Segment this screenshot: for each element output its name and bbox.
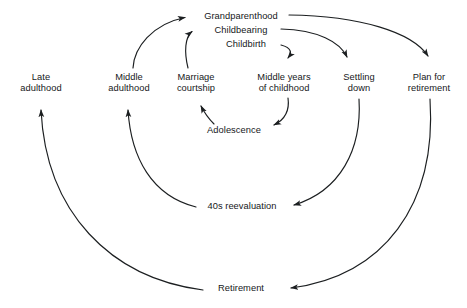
node-middle-years-line2: of childhood: [243, 83, 325, 94]
node-childbearing: Childbearing: [202, 25, 280, 36]
node-grandparenthood-label: Grandparenthood: [195, 11, 287, 22]
node-plan-for-retirement: Plan for retirement: [398, 72, 460, 94]
node-marriage-courtship-line1: Marriage: [164, 72, 228, 83]
node-plan-for-retirement-line1: Plan for: [398, 72, 460, 83]
node-middle-adulthood-line2: adulthood: [98, 83, 160, 94]
node-late-adulthood-line2: adulthood: [10, 83, 72, 94]
edge-settling-down-to-40s-reevaluation: [294, 99, 359, 205]
edge-adolescence-to-marriage: [201, 106, 214, 124]
node-settling-down-line1: Settling: [330, 72, 388, 83]
node-marriage-courtship: Marriage courtship: [164, 72, 228, 94]
node-settling-down-line2: down: [330, 83, 388, 94]
node-middle-adulthood: Middle adulthood: [98, 72, 160, 94]
node-retirement-label: Retirement: [205, 283, 277, 294]
node-middle-years-of-childhood: Middle years of childhood: [243, 72, 325, 94]
node-40s-reevaluation-label: 40s reevaluation: [196, 201, 288, 212]
edge-middle-years-to-adolescence: [274, 98, 288, 125]
node-40s-reevaluation: 40s reevaluation: [196, 201, 288, 212]
node-settling-down: Settling down: [330, 72, 388, 94]
node-childbirth-label: Childbirth: [213, 39, 279, 50]
node-retirement: Retirement: [205, 283, 277, 294]
node-plan-for-retirement-line2: retirement: [398, 83, 460, 94]
edge-middle-adulthood-to-grandparenthood: [133, 18, 185, 69]
node-marriage-courtship-line2: courtship: [164, 83, 228, 94]
node-middle-adulthood-line1: Middle: [98, 72, 160, 83]
edge-retirement-to-late-adulthood: [41, 110, 203, 290]
node-middle-years-line1: Middle years: [243, 72, 325, 83]
node-childbearing-label: Childbearing: [202, 25, 280, 36]
edge-marriage-to-childbearing: [186, 32, 192, 69]
node-adolescence-label: Adolescence: [198, 125, 270, 136]
node-late-adulthood: Late adulthood: [10, 72, 72, 94]
edge-childbirth-to-middle-years: [281, 45, 290, 58]
edge-plan-retirement-to-retirement: [291, 99, 431, 288]
node-adolescence: Adolescence: [198, 125, 270, 136]
node-late-adulthood-line1: Late: [10, 72, 72, 83]
diagram-canvas: Late adulthood Middle adulthood Marriage…: [0, 0, 467, 308]
edge-grandparenthood-to-plan-retirement: [289, 15, 428, 56]
node-grandparenthood: Grandparenthood: [195, 11, 287, 22]
edge-40s-reevaluation-to-middle-adulthood: [128, 110, 196, 207]
node-childbirth: Childbirth: [213, 39, 279, 50]
